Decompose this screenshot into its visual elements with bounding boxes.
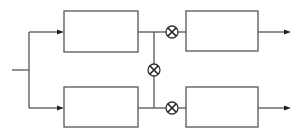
output-bottom-arrowhead-icon (284, 106, 291, 111)
arrowhead-icon (57, 106, 64, 111)
block-top-left (64, 11, 138, 52)
multiplier-bottom-icon (166, 102, 178, 114)
block-bottom-right (186, 87, 258, 127)
output-top-arrowhead-icon (284, 30, 291, 35)
block-bottom-left (64, 87, 138, 127)
multiplier-top-icon (166, 26, 178, 38)
multiplier-center-icon (148, 64, 160, 76)
block-top-right (186, 11, 258, 51)
arrowhead-icon (57, 30, 64, 35)
block-diagram (0, 0, 305, 134)
